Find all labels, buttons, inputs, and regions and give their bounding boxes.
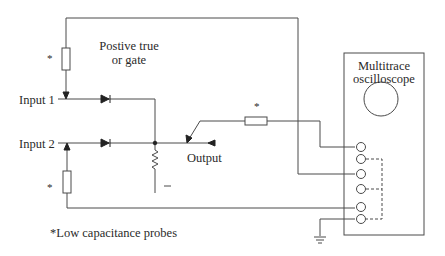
diode-input1 (101, 95, 109, 103)
terminal-3[interactable] (357, 170, 366, 179)
diode-input2 (101, 139, 109, 147)
terminal-5[interactable] (357, 203, 366, 212)
terminal-1[interactable] (357, 143, 366, 152)
gate-title-line2: or gate (94, 54, 164, 67)
probe-marker-output: * (254, 101, 260, 112)
probe-marker-input1: * (47, 53, 53, 64)
terminal-2[interactable] (357, 155, 366, 164)
terminal-6[interactable] (357, 215, 366, 224)
probe-wire-output (189, 121, 245, 139)
footnote: *Low capacitance probes (50, 227, 177, 240)
instrument-title-line1: Multitrace (344, 60, 424, 73)
probe-wire-input2 (67, 193, 355, 208)
probe-resistor-input1 (62, 48, 70, 70)
input2-label: Input 2 (19, 138, 55, 151)
input1-wire (58, 99, 155, 143)
oscilloscope-screen (364, 82, 398, 116)
output-label: Output (187, 152, 222, 165)
output-arrow-icon (208, 140, 215, 146)
probe-marker-input2: * (47, 182, 53, 193)
probe-resistor-output (245, 117, 267, 125)
pulldown-resistor (152, 143, 158, 193)
probe-resistor-input2 (63, 171, 71, 193)
input1-label: Input 1 (19, 94, 55, 107)
instrument-title-line2: oscilloscope (344, 73, 424, 86)
gate-title-line1: Postive true (94, 40, 164, 53)
input1-probe-arrow-icon (63, 92, 69, 99)
input2-probe-arrow-icon (64, 143, 70, 150)
ground-wire (320, 219, 355, 236)
junction-dot (153, 141, 157, 145)
circuit-diagram (0, 0, 445, 256)
terminal-4[interactable] (357, 185, 366, 194)
